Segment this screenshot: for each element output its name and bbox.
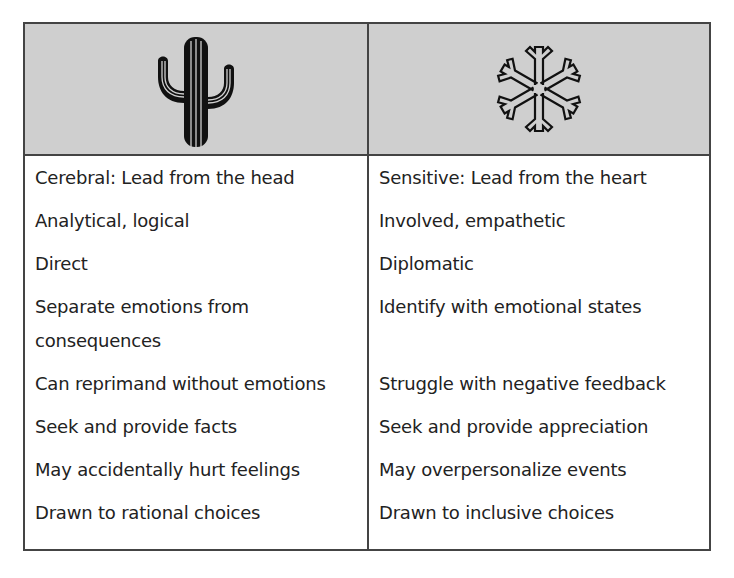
cactus-icon bbox=[154, 31, 238, 147]
right-cell: May overpersonalize events bbox=[379, 448, 707, 491]
column-divider bbox=[367, 24, 369, 549]
header-cell-cactus bbox=[25, 24, 367, 154]
left-cell: May accidentally hurt feelings bbox=[35, 448, 365, 491]
left-cell: Analytical, logical bbox=[35, 199, 365, 242]
right-column: Sensitive: Lead from the heart Involved,… bbox=[379, 156, 707, 534]
left-cell: Can reprimand without emotions bbox=[35, 362, 365, 405]
right-cell: Drawn to inclusive choices bbox=[379, 491, 707, 534]
right-cell: Seek and provide appreciation bbox=[379, 405, 707, 448]
comparison-table: Cerebral: Lead from the head Analytical,… bbox=[23, 22, 711, 551]
snowflake-icon bbox=[493, 41, 585, 137]
left-cell: Cerebral: Lead from the head bbox=[35, 156, 365, 199]
right-cell: Diplomatic bbox=[379, 242, 707, 285]
header-cell-snowflake bbox=[369, 24, 709, 154]
left-cell: Direct bbox=[35, 242, 365, 285]
left-column: Cerebral: Lead from the head Analytical,… bbox=[35, 156, 365, 534]
left-cell: Drawn to rational choices bbox=[35, 491, 365, 534]
right-cell: Identify with emotional states bbox=[379, 285, 707, 362]
left-cell: Separate emotions from consequences bbox=[35, 285, 295, 362]
right-cell: Involved, empathetic bbox=[379, 199, 707, 242]
right-cell: Sensitive: Lead from the heart bbox=[379, 156, 707, 199]
right-cell: Struggle with negative feedback bbox=[379, 362, 707, 405]
left-cell: Seek and provide facts bbox=[35, 405, 365, 448]
